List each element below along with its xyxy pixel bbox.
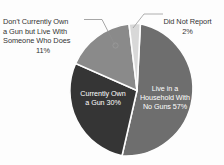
slice-label-did-not-report: Did Not Report 2%	[151, 8, 224, 36]
slice-label-dont-own-text: Don't Currently Own a Gun but Live With …	[3, 17, 70, 45]
slice-label-did-not-report-text: Did Not Report	[163, 17, 211, 26]
slice-label-dont-own: Don't Currently Own a Gun but Live With …	[3, 8, 87, 64]
slice-label-dont-own-percent: 11%	[3, 46, 83, 55]
pie-chart: Don't Currently Own a Gun but Live With …	[0, 0, 224, 165]
slice-label-did-not-report-percent: 2%	[182, 27, 193, 36]
slice-label-own-gun: Currently Own a Gun 30%	[72, 89, 134, 107]
slice-label-no-guns: Live in a Household With No Guns 57%	[128, 84, 202, 112]
